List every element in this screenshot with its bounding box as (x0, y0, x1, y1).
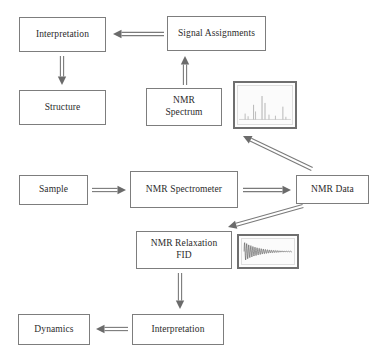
node-label: Signal Assignments (178, 28, 255, 40)
node-label: NMR Data (311, 184, 354, 196)
nmr-workflow-diagram: InterpretationSignal AssignmentsStructur… (0, 0, 384, 359)
node-label: NMR Relaxation FID (151, 238, 218, 261)
node-label: NMR Spectrometer (146, 184, 222, 196)
fid-plot (241, 238, 295, 265)
node-nmr-data: NMR Data (296, 175, 369, 204)
node-label: Interpretation (36, 29, 89, 41)
arrow-nmr-spectrometer-to-nmr-data (243, 186, 291, 194)
node-label: Dynamics (34, 324, 73, 336)
node-interpretation-bottom: Interpretation (132, 314, 224, 345)
fid-decay-thumbnail (237, 234, 299, 269)
node-label: Sample (39, 184, 68, 196)
nmr-spectrum-thumbnail (233, 81, 297, 129)
arrow-sample-to-nmr-spectrometer (92, 186, 126, 194)
arrow-nmr-relaxation-fid-to-interpretation (176, 273, 184, 309)
node-label: NMR Spectrum (165, 95, 202, 118)
node-structure: Structure (19, 90, 106, 125)
node-nmr-spectrometer: NMR Spectrometer (130, 171, 238, 208)
node-interpretation-top: Interpretation (19, 17, 106, 52)
node-dynamics: Dynamics (18, 314, 90, 345)
node-nmr-relaxation-fid: NMR Relaxation FID (136, 231, 232, 269)
node-label: Interpretation (151, 324, 204, 336)
arrow-interpretation-to-dynamics (96, 325, 128, 333)
arrow-interpretation-to-structure (58, 56, 66, 85)
node-nmr-spectrum: NMR Spectrum (146, 88, 222, 126)
node-sample: Sample (19, 175, 88, 205)
arrow-nmr-spectrum-to-signal-assignments (181, 56, 189, 85)
arrow-signal-assignments-to-interpretation (113, 30, 164, 38)
arrow-nmr-data-to-spectrum-image (243, 136, 313, 171)
spectrum-plot (237, 85, 293, 125)
node-label: Structure (45, 102, 81, 114)
arrow-nmr-data-to-nmr-relaxation-fid (228, 204, 303, 228)
node-signal-assignments: Signal Assignments (167, 16, 266, 51)
